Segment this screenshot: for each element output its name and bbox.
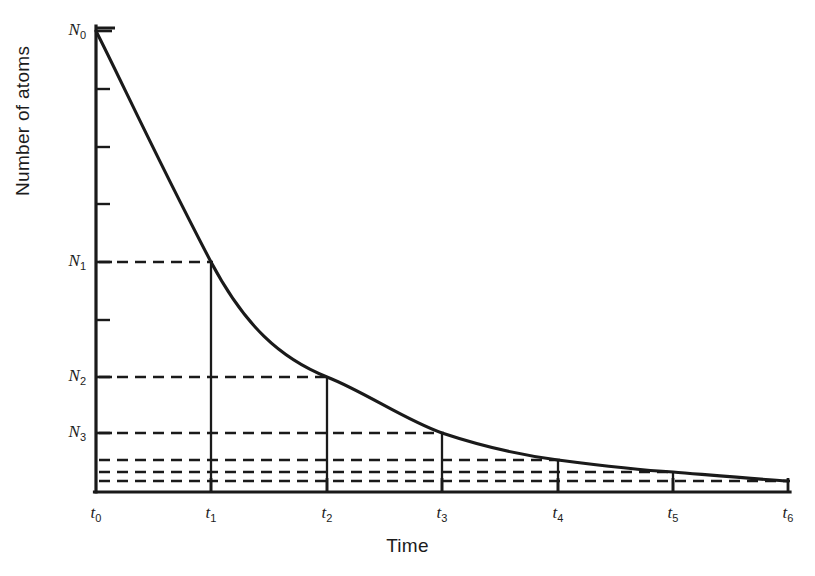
x-tick-label-t1: t1 — [191, 503, 231, 524]
y-tick-label-N0: N0 — [34, 20, 86, 41]
y-tick-label-N1: N1 — [34, 251, 86, 272]
x-tick-label-t4: t4 — [538, 503, 578, 524]
decay-chart-figure: Number of atoms Time N0 N1 N2 N3 t0 t1 t… — [0, 0, 815, 576]
x-tick-label-t6: t6 — [768, 503, 808, 524]
y-tick-label-N2: N2 — [34, 366, 86, 387]
y-tick-label-N3: N3 — [34, 422, 86, 443]
x-tick-label-t5: t5 — [653, 503, 693, 524]
y-axis-minor-ticks — [96, 89, 110, 320]
y-axis-title: Number of atoms — [12, 166, 34, 196]
y-axis-title-text: Number of atoms — [12, 166, 34, 196]
x-tick-label-t0: t0 — [76, 503, 116, 524]
x-axis-title: Time — [0, 535, 815, 557]
decay-curve — [96, 31, 788, 481]
y-axis-major-ticks — [96, 31, 112, 433]
x-tick-label-t2: t2 — [307, 503, 347, 524]
dashed-level-lines — [99, 262, 790, 481]
x-tick-label-t3: t3 — [422, 503, 462, 524]
decay-plot — [0, 0, 815, 576]
axis-lines — [95, 26, 791, 492]
